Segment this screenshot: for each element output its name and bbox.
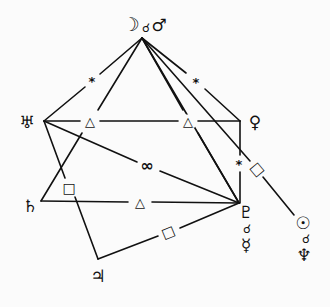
opposition-uranus-pluto-icon: ∞ bbox=[138, 158, 155, 174]
mars-symbol: ♂ bbox=[151, 17, 166, 34]
line-moon-venus-a bbox=[142, 38, 186, 73]
line-jupiter-pluto-b bbox=[180, 203, 239, 228]
jupiter-symbol: ♃ bbox=[90, 268, 105, 285]
line-uranus-pluto-b bbox=[160, 171, 239, 203]
line-jupiter-pluto-a bbox=[98, 236, 158, 259]
sun-symbol: ☉ bbox=[295, 215, 310, 232]
line-saturn-pluto-b bbox=[152, 202, 239, 203]
line-moon-uranus-b bbox=[44, 87, 85, 121]
sextile-venus-pluto-icon: * bbox=[234, 158, 245, 171]
line-saturn-pluto-a bbox=[41, 201, 128, 202]
aspect-diagram: ☽ ☌ ♂ ♅ ♀ ♄ ♇ ☌ ☿ ♃ ☉ ☌ ♆ * * △ △ ∞ □ * … bbox=[0, 0, 330, 307]
conjunction-symbol: ☌ bbox=[142, 22, 150, 34]
pluto-symbol: ♇ bbox=[238, 204, 253, 221]
mercury-symbol: ☿ bbox=[241, 237, 251, 254]
line-uranus-jupiter-b bbox=[75, 197, 98, 259]
square-uranus-jupiter-icon: □ bbox=[61, 181, 76, 195]
moon-symbol: ☽ bbox=[122, 15, 139, 34]
line-moon-sun-a bbox=[142, 38, 250, 161]
sextile-moon-uranus-icon: * bbox=[87, 75, 98, 88]
conjunction-symbol: ☌ bbox=[243, 223, 251, 235]
aspect-lines bbox=[0, 0, 330, 307]
saturn-symbol: ♄ bbox=[22, 198, 37, 215]
neptune-symbol: ♆ bbox=[296, 247, 311, 264]
uranus-symbol: ♅ bbox=[19, 114, 34, 131]
trine-saturn-pluto-icon: △ bbox=[133, 196, 147, 209]
line-moon-saturn-a bbox=[98, 38, 142, 110]
trine-uranus-venus-1-icon: △ bbox=[83, 115, 97, 128]
line-moon-sun-b bbox=[263, 177, 294, 215]
line-moon-uranus-a bbox=[100, 38, 142, 74]
conjunction-symbol: ☌ bbox=[302, 233, 310, 245]
venus-symbol: ♀ bbox=[249, 114, 261, 131]
trine-uranus-venus-2-icon: △ bbox=[181, 115, 195, 128]
sextile-moon-venus-icon: * bbox=[191, 76, 202, 89]
